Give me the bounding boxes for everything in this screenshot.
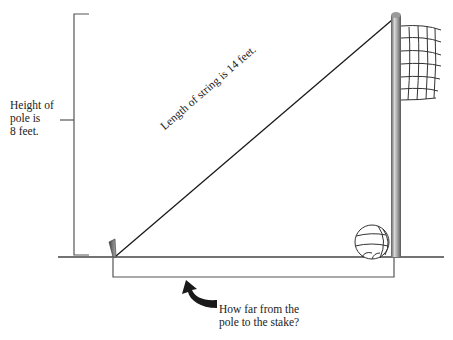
ground-stake — [109, 239, 116, 257]
pole-height-label: Height of pole is 8 feet. — [10, 99, 70, 138]
height-label-line-2: pole is — [10, 112, 70, 125]
question-line-1: How far from the — [219, 303, 339, 316]
volleyball-net-pole — [391, 12, 401, 257]
curved-arrow-icon — [182, 280, 217, 308]
diagram-canvas: Height of pole is 8 feet. Length of stri… — [0, 0, 453, 340]
volleyball — [355, 225, 389, 259]
question-line-2: pole to the stake? — [219, 316, 339, 329]
height-label-line-3: 8 feet. — [10, 125, 70, 138]
height-label-line-1: Height of — [10, 99, 70, 112]
distance-question-label: How far from the pole to the stake? — [219, 303, 339, 329]
volleyball-net — [401, 26, 441, 101]
distance-bracket — [113, 258, 394, 277]
